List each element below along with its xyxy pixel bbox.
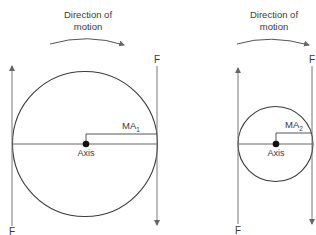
axis-dot	[273, 141, 280, 148]
direction-label-line2: motion	[260, 21, 289, 32]
moment-arm-label: MA2	[285, 119, 303, 132]
direction-label-line1: Direction of	[250, 9, 298, 20]
direction-label-line1: Direction of	[64, 9, 112, 20]
direction-label-line2: motion	[74, 21, 103, 32]
force-label-bottom: F	[235, 225, 241, 235]
force-label-top: F	[154, 54, 160, 65]
direction-arrow-icon	[237, 39, 309, 45]
moment-arm-diagram: Direction of motion F F MA1 Axis Directi…	[0, 0, 316, 235]
force-label-bottom: F	[9, 226, 15, 235]
small-wheel-group: Direction of motion F F MA2 Axis	[235, 9, 315, 235]
large-wheel-group: Direction of motion F F MA1 Axis	[9, 9, 160, 235]
force-label-top: F	[309, 54, 315, 65]
axis-label: Axis	[267, 148, 285, 158]
moment-arm-label: MA1	[122, 120, 140, 133]
direction-arrow-icon	[50, 39, 124, 45]
axis-dot	[83, 141, 90, 148]
axis-label: Axis	[77, 148, 95, 158]
moment-arm-bracket	[276, 133, 312, 144]
moment-arm-bracket	[86, 134, 157, 144]
